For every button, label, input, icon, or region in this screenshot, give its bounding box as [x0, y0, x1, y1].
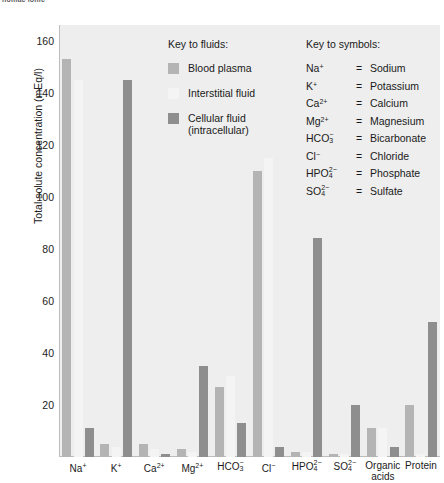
x-tick-Ca2: Ca2+ — [144, 460, 165, 474]
bar-plasma-K — [100, 444, 109, 457]
bar-group-K — [100, 25, 131, 457]
x-tick-HPO42: HPO2−4 — [292, 460, 322, 472]
bar-plasma-Ca2 — [139, 444, 148, 457]
bar-plasma-HCO3 — [215, 387, 224, 457]
legend-symbol-value-1: Potassium — [370, 80, 419, 92]
bar-plasma-Organicacids — [367, 428, 376, 457]
bar-cellular-Ca2 — [161, 454, 170, 457]
x-tick-Mg2: Mg2+ — [181, 460, 203, 474]
legend-symbol-key-5: Cl− — [306, 150, 356, 162]
legend-swatch-plasma — [168, 63, 179, 74]
legend-symbol-equals-3: = — [356, 115, 370, 127]
legend-symbol-key-0: Na+ — [306, 62, 356, 74]
legend-swatch-cellular — [168, 113, 179, 124]
legend-fluid-item-0: Blood plasma — [168, 62, 255, 76]
bar-group-Cl — [253, 25, 284, 457]
bar-cellular-SO42 — [351, 405, 360, 457]
legend-symbol-equals-4: = — [356, 132, 370, 144]
bar-interstitial-HPO42 — [302, 452, 311, 457]
bar-cellular-K — [123, 80, 132, 457]
bar-interstitial-Cl — [264, 158, 273, 457]
bar-cellular-Organicacids — [390, 447, 399, 457]
legend-symbol-equals-1: = — [356, 80, 370, 92]
legend-symbol-row-4: HCO−3=Bicarbonate — [306, 132, 426, 145]
legend-symbol-value-2: Calcium — [370, 97, 408, 109]
legend-fluid-item-2: Cellular fluid (intracellular) — [168, 112, 255, 126]
legend-fluids-rows: Blood plasmaInterstitial fluidCellular f… — [168, 62, 255, 126]
bar-interstitial-Mg2 — [188, 452, 197, 457]
legend-fluid-label-0: Blood plasma — [188, 62, 252, 74]
legend-symbol-value-6: Phosphate — [370, 167, 420, 179]
legend-fluids-title: Key to fluids: — [168, 38, 255, 50]
bar-interstitial-Ca2 — [150, 449, 159, 457]
bar-cellular-Mg2 — [199, 366, 208, 457]
bar-group-Na — [62, 25, 93, 457]
bar-cellular-Na — [85, 428, 94, 457]
legend-key-to-fluids: Key to fluids: Blood plasmaInterstitial … — [168, 38, 255, 137]
legend-symbol-equals-6: = — [356, 167, 370, 179]
bar-cellular-HCO3 — [237, 423, 246, 457]
legend-symbol-value-5: Chloride — [370, 150, 409, 162]
y-tick-20: 20 — [20, 399, 54, 411]
y-tick-40: 40 — [20, 347, 54, 359]
legend-fluid-label-1: Interstitial fluid — [188, 87, 255, 99]
bar-group-Ca2 — [139, 25, 170, 457]
legend-symbol-value-0: Sodium — [370, 62, 406, 74]
legend-key-to-symbols: Key to symbols: Na+=SodiumK+=PotassiumCa… — [306, 38, 426, 202]
bar-plasma-Na — [62, 59, 71, 457]
legend-symbol-key-7: SO2−4 — [306, 185, 356, 197]
legend-fluid-item-1: Interstitial fluid — [168, 87, 255, 101]
legend-symbol-equals-7: = — [356, 185, 370, 197]
bar-interstitial-K — [112, 447, 121, 457]
legend-swatch-interstitial — [168, 88, 179, 99]
bar-plasma-SO42 — [329, 454, 338, 457]
bar-cellular-HPO42 — [313, 238, 322, 457]
bar-interstitial-Organicacids — [378, 428, 387, 457]
legend-symbols-title: Key to symbols: — [306, 38, 426, 50]
bar-interstitial-SO42 — [340, 454, 349, 457]
bar-plasma-Protein — [405, 405, 414, 457]
legend-symbol-row-2: Ca2+=Calcium — [306, 97, 426, 110]
cropped-caption-sliver: nomac lonic — [2, 0, 45, 4]
y-axis-line — [59, 25, 60, 457]
bar-plasma-HPO42 — [291, 452, 300, 457]
bar-interstitial-HCO3 — [226, 376, 235, 457]
legend-symbol-value-7: Sulfate — [370, 185, 403, 197]
legend-symbol-key-6: HPO2−4 — [306, 167, 356, 179]
legend-symbol-row-7: SO2−4=Sulfate — [306, 185, 426, 198]
x-tick-HCO3: HCO−3 — [217, 460, 243, 472]
bar-cellular-Protein — [428, 322, 437, 457]
legend-symbol-equals-5: = — [356, 150, 370, 162]
legend-symbol-row-3: Mg2+=Magnesium — [306, 115, 426, 128]
bar-cellular-Cl — [275, 447, 284, 457]
legend-symbol-key-2: Ca2+ — [306, 97, 356, 109]
y-tick-60: 60 — [20, 295, 54, 307]
legend-symbol-row-1: K+=Potassium — [306, 80, 426, 93]
legend-symbol-row-6: HPO2−4=Phosphate — [306, 167, 426, 180]
bar-plasma-Cl — [253, 171, 262, 457]
legend-symbol-key-3: Mg2+ — [306, 115, 356, 127]
legend-symbol-key-1: K+ — [306, 80, 356, 92]
x-tick-K: K+ — [111, 460, 122, 474]
bar-interstitial-Protein — [416, 454, 425, 457]
legend-symbol-row-0: Na+=Sodium — [306, 62, 426, 75]
x-tick-Organicacids: Organicacids — [365, 460, 400, 482]
legend-symbol-equals-0: = — [356, 62, 370, 74]
x-tick-Na: Na+ — [70, 460, 87, 474]
bar-interstitial-Na — [74, 80, 83, 457]
legend-symbol-value-4: Bicarbonate — [370, 132, 426, 144]
x-tick-SO42: SO2−4 — [334, 460, 356, 472]
y-axis-title: Total solute concentration (mEq/l) — [32, 16, 44, 276]
legend-symbol-value-3: Magnesium — [370, 115, 424, 127]
legend-symbol-key-4: HCO−3 — [306, 132, 356, 144]
figure-bar-chart-body-fluid-electrolytes: nomac lonic 20406080100120140160 Total s… — [0, 0, 444, 483]
legend-symbols-rows: Na+=SodiumK+=PotassiumCa2+=CalciumMg2+=M… — [306, 62, 426, 198]
legend-symbol-equals-2: = — [356, 97, 370, 109]
x-tick-Protein: Protein — [405, 460, 437, 471]
bar-plasma-Mg2 — [177, 449, 186, 457]
legend-fluid-label-2: Cellular fluid (intracellular) — [188, 112, 249, 136]
x-tick-Cl: Cl− — [262, 460, 276, 474]
legend-symbol-row-5: Cl−=Chloride — [306, 150, 426, 163]
